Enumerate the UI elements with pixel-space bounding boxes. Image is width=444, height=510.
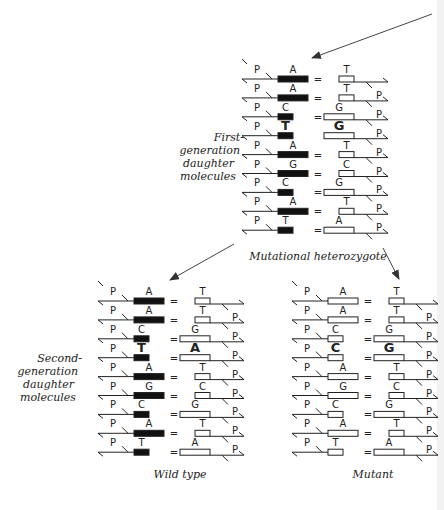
phosphate-bond	[266, 205, 272, 211]
backbone-tick	[383, 97, 388, 101]
phosphate-bond	[316, 390, 322, 396]
backbone-tick	[242, 59, 247, 64]
backbone-tick	[242, 117, 247, 121]
backbone-tick	[292, 414, 297, 418]
base-pair-row: PC=GP	[98, 399, 244, 423]
base-pair-row: PA=TP	[242, 140, 388, 164]
left-base-block	[278, 227, 293, 233]
phosphate-label: P	[376, 128, 382, 139]
phosphate-bond	[222, 361, 228, 367]
phosphate-bond	[316, 333, 322, 339]
left-base-letter: A	[146, 418, 153, 429]
phosphate-bond	[416, 342, 422, 348]
backbone-tick	[383, 154, 388, 158]
left-base-block	[278, 189, 293, 195]
phosphate-bond	[366, 233, 372, 239]
label-line: molecules	[150, 170, 236, 183]
backbone-tick	[98, 339, 103, 343]
left-base-letter: T	[137, 340, 146, 355]
phosphate-label: P	[110, 286, 116, 297]
left-base-block	[278, 133, 293, 139]
phosphate-bond	[266, 149, 272, 155]
right-base-letter: T	[342, 83, 350, 94]
right-base-letter: C	[343, 159, 350, 170]
right-base-block	[324, 227, 354, 233]
arrow-to-wild-type	[170, 244, 234, 280]
phosphate-bond	[222, 380, 228, 386]
backbone-tick	[239, 319, 244, 323]
phosphate-bond	[416, 380, 422, 386]
phosphate-bond	[222, 455, 228, 461]
backbone-tick	[383, 229, 388, 233]
phosphate-label: P	[254, 140, 260, 151]
backbone-tick	[239, 451, 244, 455]
phosphate-bond	[222, 417, 228, 423]
phosphate-bond	[122, 371, 128, 377]
phosphate-bond	[122, 333, 128, 339]
backbone-tick	[239, 432, 244, 436]
phosphate-bond	[366, 177, 372, 183]
left-base-letter: C	[332, 324, 339, 335]
first-generation-label: First- generation daughter molecules	[150, 131, 244, 183]
backbone-tick	[433, 376, 438, 380]
phosphate-label: P	[110, 437, 116, 448]
right-base-letter: G	[191, 324, 199, 335]
right-base-letter: G	[334, 118, 345, 133]
phosphate-bond	[266, 186, 272, 192]
right-base-letter: T	[198, 305, 206, 316]
phosphate-bond	[122, 390, 128, 396]
phosphate-bond	[222, 436, 228, 442]
label-line: molecules	[2, 391, 76, 404]
base-pair-row: PA=TP	[98, 362, 244, 386]
hydrogen-bond: =	[364, 334, 372, 345]
phosphate-label: P	[232, 369, 238, 380]
left-base-block	[134, 411, 149, 417]
phosphate-label: P	[110, 381, 116, 392]
backbone-tick	[98, 452, 103, 456]
phosphate-bond	[316, 427, 322, 433]
phosphate-bond	[366, 214, 372, 220]
phosphate-label: P	[110, 399, 116, 410]
backbone-tick	[98, 414, 103, 418]
backbone-tick	[383, 135, 388, 139]
base-pair-row: PA=TP	[242, 83, 388, 107]
left-base-letter: A	[340, 418, 347, 429]
right-base-letter: C	[199, 381, 206, 392]
right-base-letter: T	[198, 362, 206, 373]
hydrogen-bond: =	[170, 296, 178, 307]
left-base-block	[278, 95, 308, 101]
left-base-letter: T	[331, 437, 339, 448]
base-pair-row: PA=T	[98, 281, 244, 310]
right-base-block	[339, 95, 354, 101]
phosphate-label: P	[304, 343, 310, 354]
phosphate-label: P	[254, 215, 260, 226]
wild-type-block: PA=TPA=TPPC=GPPT=APPA=TPPG=CPPC=GPPA=TPP…	[98, 281, 244, 461]
right-base-letter: G	[335, 177, 343, 188]
backbone-tick	[98, 396, 103, 400]
backbone-tick	[292, 452, 297, 456]
backbone-tick	[239, 357, 244, 361]
phosphate-bond	[266, 73, 272, 79]
backbone-tick	[292, 377, 297, 381]
phosphate-label: P	[426, 369, 432, 380]
base-pair-row: PA=T	[292, 281, 438, 310]
left-base-letter: C	[331, 340, 341, 355]
phosphate-label: P	[232, 425, 238, 436]
hydrogen-bond: =	[170, 409, 178, 420]
phosphate-label: P	[376, 222, 382, 233]
phosphate-bond	[122, 427, 128, 433]
phosphate-bond	[266, 92, 272, 98]
right-base-letter: A	[190, 340, 200, 355]
base-pair-row: PA=TP	[292, 418, 438, 442]
hydrogen-bond: =	[170, 334, 178, 345]
backbone-tick	[98, 320, 103, 324]
phosphate-bond	[316, 295, 322, 301]
backbone-tick	[292, 281, 297, 286]
phosphate-bond	[416, 417, 422, 423]
backbone-tick	[433, 357, 438, 361]
phosphate-bond	[316, 446, 322, 452]
left-base-letter: G	[145, 381, 153, 392]
backbone-tick	[242, 192, 247, 196]
phosphate-label: P	[232, 312, 238, 323]
backbone-tick	[98, 433, 103, 437]
